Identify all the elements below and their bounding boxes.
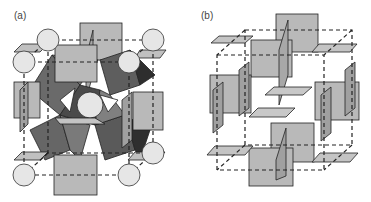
- plane-skeleton-drawing: [185, 0, 371, 202]
- octahedral-framework-drawing: [0, 0, 185, 202]
- panel-b: (b): [185, 0, 371, 202]
- panel-a: (a): [0, 0, 185, 202]
